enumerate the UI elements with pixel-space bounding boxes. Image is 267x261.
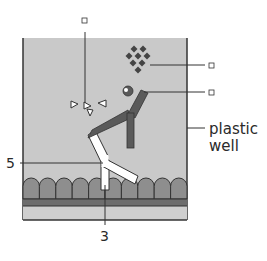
label-3: 3	[100, 228, 109, 244]
cell	[72, 178, 88, 199]
cell	[171, 178, 187, 199]
label-plastic: plastic	[209, 120, 258, 138]
elisa-diagram: plastic well 5 3	[0, 0, 267, 261]
label-box-antibody	[209, 90, 214, 95]
cell	[138, 178, 154, 199]
cell	[154, 178, 170, 199]
label-5: 5	[6, 155, 15, 171]
label-box-top	[82, 18, 87, 23]
cell	[23, 178, 39, 199]
label-box-enzyme	[209, 63, 214, 68]
cell	[56, 178, 72, 199]
label-well: well	[209, 137, 239, 155]
cell	[39, 178, 55, 199]
